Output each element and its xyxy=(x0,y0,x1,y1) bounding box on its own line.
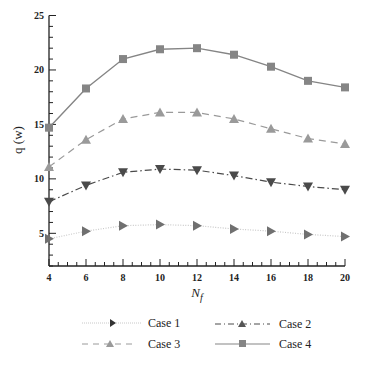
square-marker-icon xyxy=(193,44,201,52)
legend: Case 1 Case 2 Case 3 Case 4 xyxy=(82,316,311,351)
square-marker-icon xyxy=(267,63,275,71)
triangle-down-marker-icon xyxy=(44,198,54,207)
x-tick-label: 16 xyxy=(266,272,276,283)
series-case-4 xyxy=(45,44,349,132)
triangle-up-marker-icon xyxy=(118,114,128,123)
legend-item-case-1: Case 1 xyxy=(82,316,180,330)
series-line xyxy=(49,112,345,166)
legend-label: Case 4 xyxy=(279,337,311,351)
square-marker-icon xyxy=(82,84,90,92)
square-marker-icon xyxy=(230,51,238,59)
x-axis-title: Nf xyxy=(190,285,204,303)
y-axis-title: q (w) xyxy=(10,126,25,154)
legend-label: Case 2 xyxy=(279,317,311,331)
legend-label: Case 3 xyxy=(148,337,180,351)
axes: 510152025468101214161820 xyxy=(34,10,350,283)
triangle-down-marker-icon xyxy=(118,168,128,177)
series-case-3 xyxy=(44,107,350,170)
y-tick-label: 15 xyxy=(34,119,44,130)
square-marker-icon xyxy=(119,55,127,63)
series-case-2 xyxy=(44,165,350,207)
x-tick-label: 4 xyxy=(47,272,52,283)
triangle-up-marker-icon xyxy=(340,139,350,148)
triangle-down-marker-icon xyxy=(303,182,313,191)
square-marker-icon xyxy=(304,77,312,85)
triangle-down-marker-icon xyxy=(192,166,202,175)
triangle-up-marker-icon xyxy=(44,162,54,171)
series-group xyxy=(44,44,350,244)
triangle-up-marker-icon xyxy=(303,134,313,143)
series-case-1 xyxy=(45,220,350,244)
legend-item-case-2: Case 2 xyxy=(215,317,311,331)
triangle-down-marker-icon xyxy=(81,181,91,190)
y-tick-label: 10 xyxy=(34,173,44,184)
x-tick-label: 8 xyxy=(121,272,126,283)
triangle-right-marker-icon xyxy=(341,232,350,242)
triangle-right-marker-icon xyxy=(110,319,116,327)
triangle-down-marker-icon xyxy=(340,186,350,195)
square-marker-icon xyxy=(45,124,53,132)
square-marker-icon xyxy=(156,45,164,53)
triangle-right-marker-icon xyxy=(193,221,202,231)
line-chart: 510152025468101214161820 q (w) Nf Case 1… xyxy=(0,0,365,365)
triangle-right-marker-icon xyxy=(267,226,276,236)
x-tick-label: 14 xyxy=(229,272,239,283)
triangle-up-marker-icon xyxy=(81,135,91,144)
y-tick-label: 20 xyxy=(34,64,44,75)
square-marker-icon xyxy=(341,83,349,91)
x-tick-label: 18 xyxy=(303,272,313,283)
triangle-up-marker-icon xyxy=(266,124,276,133)
x-tick-label: 12 xyxy=(192,272,202,283)
triangle-right-marker-icon xyxy=(82,226,91,236)
legend-label: Case 1 xyxy=(148,316,180,330)
triangle-right-marker-icon xyxy=(156,220,165,230)
x-tick-label: 20 xyxy=(340,272,350,283)
triangle-right-marker-icon xyxy=(304,229,313,239)
square-marker-icon xyxy=(239,340,246,347)
legend-item-case-3: Case 3 xyxy=(82,337,180,351)
triangle-right-marker-icon xyxy=(230,224,239,234)
x-axis-title-sub: f xyxy=(200,292,204,303)
legend-item-case-4: Case 4 xyxy=(215,337,311,351)
triangle-up-marker-icon xyxy=(155,107,165,116)
x-tick-label: 6 xyxy=(84,272,89,283)
x-tick-label: 10 xyxy=(155,272,165,283)
y-tick-label: 25 xyxy=(34,10,44,21)
triangle-right-marker-icon xyxy=(119,221,128,231)
y-tick-label: 5 xyxy=(39,228,44,239)
